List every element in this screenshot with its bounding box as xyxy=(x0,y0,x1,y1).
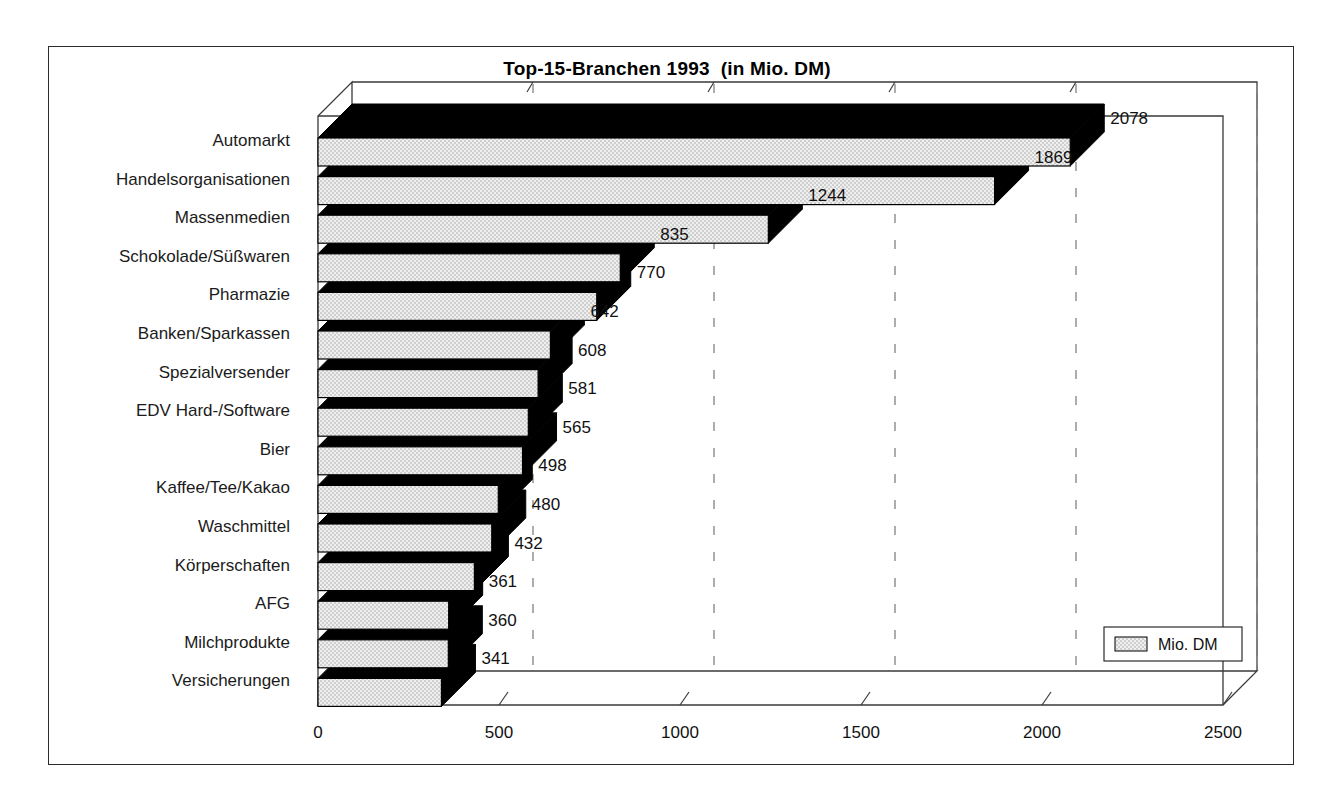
value-label-4: 770 xyxy=(637,263,665,282)
category-label-13: Milchprodukte xyxy=(184,633,290,652)
category-label-2: Massenmedien xyxy=(175,208,290,227)
bars-group xyxy=(318,104,1104,706)
value-label-3: 835 xyxy=(660,225,688,244)
chart-legend: Mio. DM xyxy=(1104,627,1242,661)
x-tick-label-1: 500 xyxy=(485,723,513,742)
bar-chart-plot: AutomarktHandelsorganisationenMassenmedi… xyxy=(0,0,1334,802)
x-axis-ticks-group: 05001000150020002500 xyxy=(313,723,1242,742)
category-labels-group: AutomarktHandelsorganisationenMassenmedi… xyxy=(116,131,290,690)
x-tick-label-3: 1500 xyxy=(842,723,880,742)
value-label-13: 360 xyxy=(488,611,516,630)
value-label-0: 2078 xyxy=(1110,109,1148,128)
value-label-6: 608 xyxy=(578,341,606,360)
bar-0 xyxy=(318,104,1104,166)
category-label-0: Automarkt xyxy=(213,131,291,150)
x-tick-label-4: 2000 xyxy=(1023,723,1061,742)
value-label-8: 565 xyxy=(563,418,591,437)
category-label-7: EDV Hard-/Software xyxy=(136,401,290,420)
category-label-8: Bier xyxy=(260,440,291,459)
category-label-4: Pharmazie xyxy=(209,285,290,304)
x-tick-label-2: 1000 xyxy=(661,723,699,742)
value-label-2: 1244 xyxy=(808,186,846,205)
value-label-7: 581 xyxy=(568,379,596,398)
value-label-1: 1869 xyxy=(1035,148,1073,167)
category-label-3: Schokolade/Süßwaren xyxy=(119,247,290,266)
x-tick-label-5: 2500 xyxy=(1204,723,1242,742)
category-label-10: Waschmittel xyxy=(198,517,290,536)
value-label-12: 361 xyxy=(489,572,517,591)
value-label-11: 432 xyxy=(514,534,542,553)
category-label-11: Körperschaften xyxy=(175,556,290,575)
value-label-9: 498 xyxy=(538,456,566,475)
legend-label: Mio. DM xyxy=(1158,636,1218,653)
chart-screenshot: Top-15-Branchen 1993 (in Mio. DM) Automa… xyxy=(0,0,1334,802)
value-label-5: 642 xyxy=(590,302,618,321)
category-label-12: AFG xyxy=(255,594,290,613)
category-label-1: Handelsorganisationen xyxy=(116,170,290,189)
legend-swatch xyxy=(1115,637,1147,651)
category-label-5: Banken/Sparkassen xyxy=(138,324,290,343)
value-label-10: 480 xyxy=(532,495,560,514)
value-label-14: 341 xyxy=(481,649,509,668)
category-label-9: Kaffee/Tee/Kakao xyxy=(156,478,290,497)
x-tick-label-0: 0 xyxy=(313,723,322,742)
category-label-14: Versicherungen xyxy=(172,671,290,690)
category-label-6: Spezialversender xyxy=(159,363,291,382)
